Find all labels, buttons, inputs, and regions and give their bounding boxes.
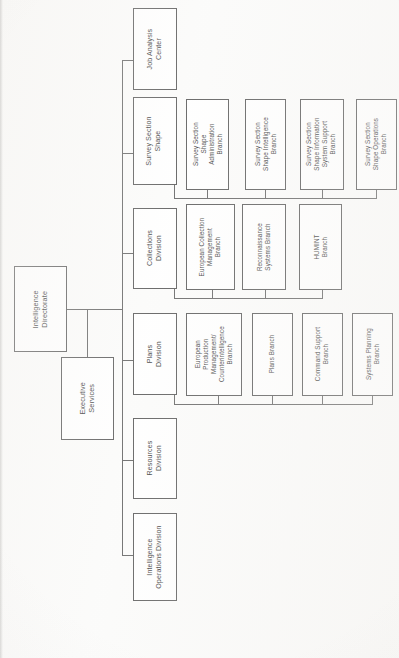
node-intelligence-directorate[interactable]: IntelligenceDirectorate [14,266,67,352]
node-label: IntelligenceDirectorate [31,290,50,328]
node-label: Survey SectionShape [146,116,164,165]
node-humint-branch[interactable]: HUMINTBranch [299,204,342,290]
node-reconnaissance-systems-branch[interactable]: ReconnaissanceSystems Branch [242,204,286,290]
connector-survey-child-4 [376,190,377,199]
node-label: Job AnalysisCenter [146,29,164,70]
node-resources-division[interactable]: ResourcesDivision [133,418,177,499]
connector-trunk-to-intelligence-operations-division [122,555,133,556]
node-label: European CollectionManagementBranch [198,218,222,277]
node-intelligence-operations-division[interactable]: IntelligenceOperations Division [133,513,177,601]
connector-trunk-to-job-analysis-center [122,60,133,61]
scan-left-edge-shadow [0,0,3,658]
node-european-production-management-counterintelligence-branch[interactable]: EuropeanProductionManagement/Counterinte… [186,313,242,396]
node-label: ExecutiveServices [78,382,97,415]
connector-collections-bus [174,298,322,299]
connector-root-stub [67,309,122,310]
connector-plans-bus [174,404,372,405]
node-survey-shape-operations-branch[interactable]: Survey SectionShape OperationsBranch [356,99,397,190]
node-label: Survey SectionShape InformationSystem Su… [306,118,338,171]
connector-plans-parent-drop [174,394,175,405]
connector-plans-child-4 [372,396,373,405]
node-collections-division[interactable]: CollectionsDivision [133,208,177,289]
node-job-analysis-center[interactable]: Job AnalysisCenter [133,8,177,90]
org-chart-page: IntelligenceDirectorate ExecutiveService… [0,0,399,658]
connector-collections-child-2 [265,290,266,299]
node-label: Survey SectionShapeAdministrationBranch [191,123,223,167]
node-label: Survey SectionShape IntelligenceBranch [253,118,277,172]
connector-survey-child-2 [265,190,266,199]
node-plans-branch[interactable]: Plans Branch [252,313,293,396]
node-european-collection-management-branch[interactable]: European CollectionManagementBranch [186,204,235,290]
node-label: CollectionsDivision [146,231,164,267]
node-survey-shape-administration-branch[interactable]: Survey SectionShapeAdministrationBranch [186,99,229,190]
node-label: Systems PlanningBranch [364,329,380,381]
connector-trunk-to-collections-division [122,253,133,254]
connector-collections-child-1 [212,290,213,299]
node-label: Survey SectionShape OperationsBranch [364,118,388,170]
node-label: EuropeanProductionManagement/Counterinte… [194,327,234,383]
node-label: IntelligenceOperations Division [146,525,164,588]
node-executive-services[interactable]: ExecutiveServices [61,357,114,440]
connector-survey-parent-drop [174,185,175,199]
node-systems-planning-branch[interactable]: Systems PlanningBranch [352,313,393,396]
node-survey-shape-information-system-support-branch[interactable]: Survey SectionShape InformationSystem Su… [300,99,344,190]
connector-plans-child-2 [272,396,273,405]
node-label: HUMINTBranch [312,234,328,259]
connector-executive-services [87,309,88,357]
node-label: ReconnaissanceSystems Branch [256,223,272,271]
connector-survey-bus [174,198,376,199]
node-plans-division[interactable]: PlansDivision [133,313,177,395]
connector-plans-child-1 [218,396,219,405]
node-label: ResourcesDivision [146,441,164,476]
connector-survey-child-3 [322,190,323,199]
connector-plans-child-3 [322,396,323,405]
node-label: Plans Branch [268,335,276,374]
node-command-support-branch[interactable]: Command SupportBranch [302,313,343,396]
connector-collections-parent-drop [174,288,175,299]
connector-survey-child-1 [207,190,208,199]
node-survey-shape-intelligence-branch[interactable]: Survey SectionShape IntelligenceBranch [245,99,286,190]
connector-trunk-to-plans-division [122,360,133,361]
node-label: Command SupportBranch [314,327,330,381]
connector-main-trunk [122,60,123,555]
connector-trunk-to-resources-division [122,460,133,461]
node-label: PlansDivision [146,341,164,367]
connector-collections-child-3 [322,290,323,299]
connector-trunk-to-survey-section-shape [122,153,133,154]
node-survey-section-shape[interactable]: Survey SectionShape [133,97,177,185]
